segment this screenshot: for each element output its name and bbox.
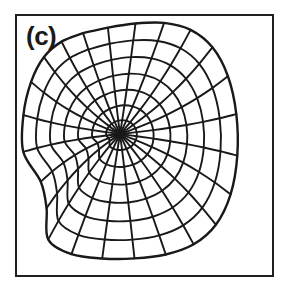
panel-label: (c) (26, 23, 56, 49)
figure-panel: (c) (0, 0, 287, 294)
figure-frame-border (15, 14, 274, 277)
